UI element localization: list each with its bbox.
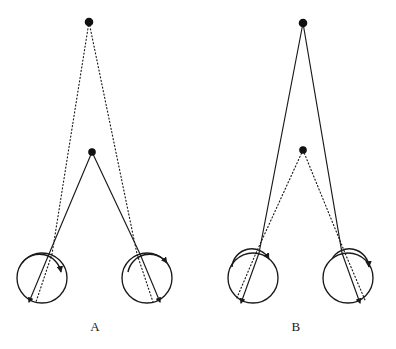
eye-fixation-diagram: A: [0, 0, 396, 349]
near-point-marker: [89, 149, 95, 155]
panel-label-a: A: [90, 319, 100, 334]
far-point-marker: [299, 19, 306, 26]
near-point-marker: [300, 147, 306, 153]
far-point-marker: [85, 18, 92, 25]
panel-label-b: B: [292, 319, 301, 334]
figure-root: A: [0, 0, 396, 349]
